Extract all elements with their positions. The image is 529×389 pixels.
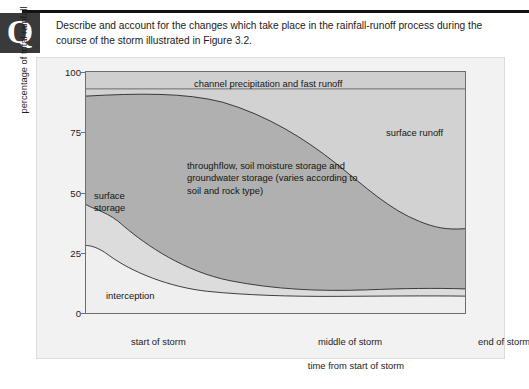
- y-tick-mark-25: [81, 253, 86, 254]
- band-channel-precipitation: [86, 72, 465, 89]
- chart-plot-area: 100 75 50 25 0: [85, 71, 466, 314]
- question-line-2: course of the storm illustrated in Figur…: [56, 33, 506, 48]
- y-tick-label-50: 50: [70, 187, 81, 198]
- x-axis-title: time from start of storm: [286, 360, 426, 371]
- x-label-middle-of-storm: middle of storm: [318, 336, 382, 347]
- y-tick-label-100: 100: [65, 67, 81, 78]
- y-tick-mark-75: [81, 132, 86, 133]
- question-text: Describe and account for the changes whi…: [56, 18, 506, 48]
- header-rule: [22, 10, 529, 13]
- y-tick-label-75: 75: [70, 127, 81, 138]
- chart-areas: [86, 72, 465, 313]
- y-tick-mark-50: [81, 193, 86, 194]
- y-tick-label-25: 25: [70, 247, 81, 258]
- x-label-start-of-storm: start of storm: [131, 336, 186, 347]
- figure-panel: percentage of total rainfall 100 75 50 2…: [36, 57, 505, 359]
- question-line-1: Describe and account for the changes whi…: [56, 20, 482, 31]
- x-label-end-of-storm: end of storm: [478, 336, 529, 347]
- y-tick-mark-100: [81, 72, 86, 73]
- y-tick-mark-0: [81, 313, 86, 314]
- y-axis-title: percentage of total rainfall: [19, 0, 29, 150]
